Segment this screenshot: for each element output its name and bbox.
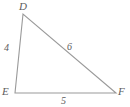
side-length-label-de: 4	[4, 43, 9, 53]
vertex-label-e: E	[2, 86, 9, 97]
triangle-shape	[15, 14, 116, 93]
geometry-figure-triangle-def: D E F 4 6 5	[0, 0, 130, 107]
vertex-label-d: D	[19, 1, 27, 12]
triangle-outline-svg	[0, 0, 130, 107]
side-length-label-df: 6	[67, 42, 72, 52]
vertex-label-f: F	[118, 86, 125, 97]
side-length-label-ef: 5	[61, 96, 66, 106]
